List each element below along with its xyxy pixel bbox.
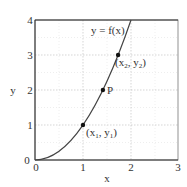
svg-text:2: 2: [128, 161, 134, 173]
svg-text:3: 3: [175, 161, 181, 173]
y-tick-labels: 0 1 2 3 4: [24, 14, 33, 166]
point-p-label: P: [107, 84, 113, 96]
point-p: [101, 88, 105, 92]
point-x2-y2-label: (x2, y2): [115, 56, 146, 70]
chart: 0 1 2 3 4 0 1 2 3 x y y = f(x) P (x1, y1…: [0, 0, 187, 187]
svg-text:3: 3: [27, 49, 33, 61]
point-x1-y1-label: (x1, y1): [86, 126, 117, 140]
curve-label: y = f(x): [91, 24, 125, 37]
svg-text:0: 0: [33, 161, 39, 173]
y-axis-label: y: [10, 84, 16, 96]
svg-text:4: 4: [27, 14, 33, 26]
svg-text:2: 2: [27, 84, 33, 96]
point-x1-y1: [81, 123, 85, 127]
x-axis-label: x: [104, 172, 110, 184]
svg-text:0: 0: [24, 154, 30, 166]
svg-text:1: 1: [27, 119, 33, 131]
svg-text:1: 1: [80, 161, 86, 173]
